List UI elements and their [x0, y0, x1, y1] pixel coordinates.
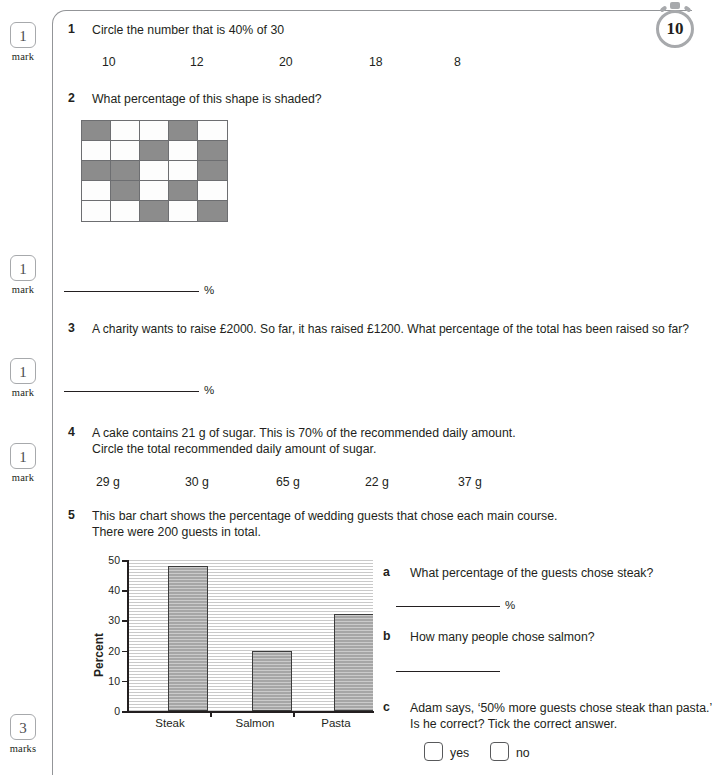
shaded-shape-grid: [81, 120, 228, 222]
question-text: Circle the number that is 40% of 30: [92, 22, 284, 39]
checkbox-no-label: no: [516, 746, 530, 760]
mark-label: mark: [8, 472, 38, 483]
subquestion-text: What percentage of the guests chose stea…: [410, 565, 653, 582]
subquestion-text-line2: Is he correct? Tick the correct answer.: [410, 716, 617, 733]
y-tick-label: 0: [102, 705, 120, 717]
question-number: 1: [68, 22, 84, 36]
grid-cell-r3-c3: [140, 161, 169, 181]
x-axis: [127, 711, 374, 713]
y-tick-label: 40: [102, 584, 120, 596]
mark-label: marks: [8, 743, 38, 754]
x-tick-label: Pasta: [314, 717, 358, 729]
y-tick: [122, 560, 127, 562]
x-tick-label: Salmon: [230, 717, 280, 729]
answer-line[interactable]: [396, 606, 500, 607]
mark-value: 1: [10, 255, 36, 281]
y-tick-label: 30: [102, 614, 120, 626]
mark-value: 1: [10, 358, 36, 384]
checkbox-no[interactable]: [490, 742, 509, 761]
bar-chart: 0 10 20 30 40 50 Steak Salmon Pasta Perc…: [90, 552, 390, 732]
grid-cell-r2-c4: [169, 141, 198, 161]
checkbox-yes-label: yes: [450, 746, 469, 760]
grid-cell-r5-c2: [111, 201, 140, 221]
mark-value: 3: [10, 714, 36, 740]
y-tick: [122, 711, 127, 713]
question-number: 5: [68, 508, 84, 522]
bar-steak: [168, 566, 208, 711]
option-choice[interactable]: 8: [454, 55, 461, 69]
grid-cell-r3-c2: [111, 161, 140, 181]
subquestion-letter: b: [383, 629, 391, 643]
stopwatch-value: 10: [656, 10, 694, 48]
grid-cell-r1-c3: [140, 121, 169, 141]
option-choice[interactable]: 18: [369, 55, 383, 69]
answer-unit: %: [505, 599, 515, 611]
answer-line[interactable]: [396, 671, 500, 672]
question-text-line2: Circle the total recommended daily amoun…: [92, 441, 376, 458]
y-tick-label: 50: [102, 554, 120, 566]
y-axis-title: Percent: [92, 633, 106, 677]
marks-margin: 1 mark 1 mark 1 mark 1 mark 3 marks: [0, 0, 48, 767]
mark-label: mark: [8, 51, 38, 62]
grid-cell-r4-c2: [111, 181, 140, 201]
answer-line[interactable]: [64, 391, 199, 392]
question-number: 3: [68, 321, 84, 335]
option-choice[interactable]: 10: [102, 55, 116, 69]
bar-pasta: [334, 614, 373, 711]
x-tick: [293, 712, 295, 717]
stopwatch-icon: 10: [653, 2, 699, 50]
option-choice[interactable]: 12: [190, 55, 204, 69]
grid-cell-r4-c4: [169, 181, 198, 201]
mark-value: 1: [10, 443, 36, 469]
mark-value: 1: [10, 22, 36, 48]
question-number: 4: [68, 425, 84, 439]
bar-salmon: [252, 651, 292, 711]
option-choice[interactable]: 37 g: [458, 475, 482, 489]
subquestion-letter: c: [383, 700, 390, 714]
y-tick: [122, 620, 127, 622]
grid-cell-r2-c3: [140, 141, 169, 161]
question-text: A charity wants to raise £2000. So far, …: [92, 321, 689, 338]
option-choice[interactable]: 30 g: [185, 475, 209, 489]
checkbox-yes[interactable]: [424, 742, 443, 761]
y-tick: [122, 590, 127, 592]
grid-cell-r5-c4: [169, 201, 198, 221]
grid-cell-r3-c5: [198, 161, 227, 181]
grid-cell-r2-c2: [111, 141, 140, 161]
question-text-line2: There were 200 guests in total.: [92, 524, 261, 541]
y-tick: [122, 651, 127, 653]
question-text-line1: A cake contains 21 g of sugar. This is 7…: [92, 425, 516, 442]
mark-label: mark: [8, 387, 38, 398]
grid-cell-r3-c1: [82, 161, 111, 181]
question-number: 2: [68, 91, 84, 105]
grid-cell-r4-c1: [82, 181, 111, 201]
y-axis: [127, 560, 129, 712]
grid-cell-r1-c4: [169, 121, 198, 141]
mark-box: 1 mark: [8, 443, 38, 483]
mark-box: 1 mark: [8, 255, 38, 295]
answer-line[interactable]: [64, 291, 199, 292]
grid-cell-r2-c5: [198, 141, 227, 161]
grid-cell-r1-c5: [198, 121, 227, 141]
answer-unit: %: [204, 384, 214, 396]
grid-cell-r3-c4: [169, 161, 198, 181]
y-tick: [122, 681, 127, 683]
subquestion-letter: a: [383, 565, 390, 579]
mark-box: 3 marks: [8, 714, 38, 754]
grid-cell-r1-c1: [82, 121, 111, 141]
grid-cell-r1-c2: [111, 121, 140, 141]
question-text: What percentage of this shape is shaded?: [92, 91, 322, 108]
option-choice[interactable]: 20: [279, 55, 293, 69]
question-text-line1: This bar chart shows the percentage of w…: [92, 508, 558, 525]
option-choice[interactable]: 29 g: [96, 475, 120, 489]
grid-cell-r4-c3: [140, 181, 169, 201]
x-tick: [210, 712, 212, 717]
mark-box: 1 mark: [8, 358, 38, 398]
option-choice[interactable]: 22 g: [365, 475, 389, 489]
x-tick-label: Steak: [148, 717, 192, 729]
grid-cell-r5-c5: [198, 201, 227, 221]
chart-plot-area: [128, 560, 373, 711]
grid-cell-r2-c1: [82, 141, 111, 161]
subquestion-text-line1: Adam says, ‘50% more guests chose steak …: [410, 700, 712, 717]
option-choice[interactable]: 65 g: [276, 475, 300, 489]
